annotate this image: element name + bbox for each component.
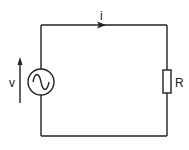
voltage-arrow-head-icon [18, 57, 23, 65]
sine-wave-icon [33, 75, 49, 90]
resistor-label: R [175, 76, 184, 90]
resistor-icon [163, 70, 171, 93]
current-label: i [100, 9, 103, 23]
voltage-label: v [9, 76, 15, 90]
circuit-diagram: i v R [0, 0, 189, 150]
